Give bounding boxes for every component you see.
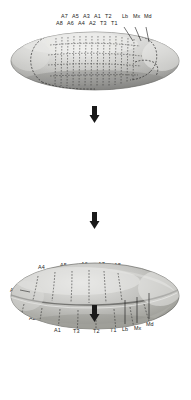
arrow-panel1-to-panel2 — [0, 106, 191, 124]
drosophila-segmentation-figure: A7 A5 A3 A1 T2 Lb Mx Md A8 A6 A4 A2 T3 T… — [0, 0, 191, 400]
arrow-panel2-to-panel3 — [0, 212, 191, 230]
blastoderm-embryo-drawing — [0, 0, 191, 100]
panel-blastoderm-embryo: A7 A5 A3 A1 T2 Lb Mx Md A8 A6 A4 A2 T3 T… — [0, 0, 191, 100]
panel-germband-retracted-embryo: A8 A7 A6 A5 A4 A3 A2 A1 T3 T2 T1 — [0, 230, 191, 305]
panel-adult-fly: A5 A4 A3 A2 A1 T3 T2 T1 A6 A7 A8 — [0, 316, 191, 400]
panel-germband-extended-embryo: A4 A5 A6 A7 A8 A3 A2 A1 T3 T2 T1 Lb Mx M… — [0, 124, 191, 222]
